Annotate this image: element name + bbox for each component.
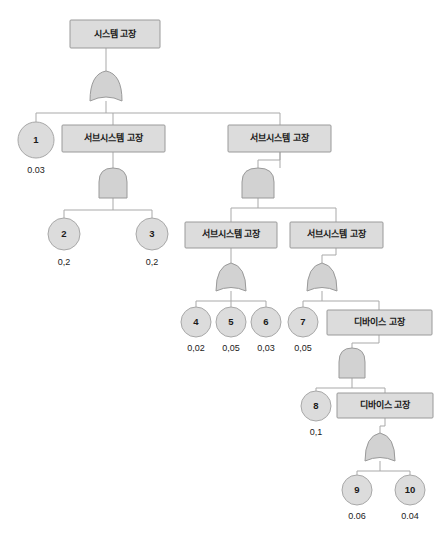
event-box-device-failure-a[interactable]: 디바이스 고장 (327, 310, 432, 335)
basic-event-6[interactable]: 6 0,03 (251, 307, 281, 353)
event-box-subsystem-failure-d[interactable]: 서브시스템 고장 (290, 222, 383, 248)
basic-event-2[interactable]: 2 0,2 (48, 218, 80, 267)
and-gate-icon-subsystem-b (242, 168, 274, 198)
basic-event-7[interactable]: 7 0,05 (288, 307, 318, 353)
event-box-label: 서브시스템 고장 (307, 228, 367, 239)
connector-dev-a-to-gate (352, 335, 379, 348)
basic-event-probability: 0,2 (58, 257, 71, 267)
event-box-label: 서브시스템 고장 (202, 228, 262, 239)
basic-event-number: 3 (149, 228, 154, 239)
event-box-subsystem-failure-b[interactable]: 서브시스템 고장 (228, 125, 331, 152)
event-box-label: 서브시스템 고장 (84, 132, 144, 143)
fault-tree-diagram: 시스템 고장 서브시스템 고장 서브시스템 고장 서브시스템 고장 서브시스템 … (0, 0, 446, 537)
basic-event-probability: 0,1 (310, 427, 323, 437)
basic-event-probability: 0,2 (146, 257, 159, 267)
basic-event-8[interactable]: 8 0,1 (301, 391, 331, 437)
basic-event-probability: 0.03 (27, 165, 45, 175)
basic-event-number: 2 (61, 228, 66, 239)
basic-event-probability: 0,03 (257, 343, 275, 353)
or-gate-icon-subsystem-c (216, 263, 246, 291)
connector-sub-b-drop (258, 152, 280, 168)
basic-event-probability: 0,05 (294, 343, 312, 353)
connector-sub-a-bus (64, 198, 152, 218)
connector-dev-a-bus (316, 378, 385, 393)
basic-event-probability: 0,05 (222, 343, 240, 353)
event-box-label: 서브시스템 고장 (250, 132, 310, 143)
event-box-subsystem-failure-c[interactable]: 서브시스템 고장 (185, 222, 277, 248)
connector-sub-d-bus (303, 291, 379, 310)
or-gate-icon-device-b (365, 433, 395, 461)
connector-sub-b-bus (231, 198, 336, 222)
connector-sub-d-to-gate (322, 248, 336, 263)
basic-event-number: 1 (33, 134, 39, 145)
basic-event-number: 6 (263, 316, 268, 327)
basic-event-number: 5 (228, 316, 234, 327)
connector-dev-b-bus (357, 461, 410, 475)
event-box-system-failure[interactable]: 시스템 고장 (70, 20, 160, 48)
connector-top-bus (36, 101, 280, 125)
event-box-device-failure-b[interactable]: 디바이스 고장 (337, 393, 433, 418)
basic-event-probability: 0.06 (348, 511, 366, 521)
basic-event-probability: 0.04 (401, 511, 419, 521)
and-gate-icon-device-a (339, 348, 365, 378)
basic-event-5[interactable]: 5 0,05 (216, 307, 246, 353)
event-box-label: 시스템 고장 (94, 28, 138, 39)
basic-event-9[interactable]: 9 0.06 (342, 475, 372, 521)
or-gate-icon-subsystem-d (307, 263, 337, 291)
connector-sub-c-bus (196, 291, 266, 307)
connector-dev-b-to-gate (380, 418, 385, 433)
basic-event-1[interactable]: 1 0.03 (18, 122, 54, 175)
basic-event-number: 8 (313, 400, 318, 411)
basic-event-number: 9 (354, 484, 359, 495)
basic-event-3[interactable]: 3 0,2 (136, 218, 168, 267)
basic-event-10[interactable]: 10 0.04 (395, 475, 425, 521)
event-box-label: 디바이스 고장 (360, 399, 412, 410)
and-gate-icon-subsystem-a (99, 168, 127, 198)
or-gate-icon-top (90, 71, 122, 101)
basic-event-probability: 0,02 (187, 343, 205, 353)
basic-event-4[interactable]: 4 0,02 (181, 307, 211, 353)
event-box-label: 디바이스 고장 (354, 316, 406, 327)
basic-event-number: 4 (193, 316, 199, 327)
basic-event-number: 7 (300, 316, 305, 327)
basic-event-number: 10 (405, 484, 416, 495)
event-box-subsystem-failure-a[interactable]: 서브시스템 고장 (62, 125, 165, 152)
